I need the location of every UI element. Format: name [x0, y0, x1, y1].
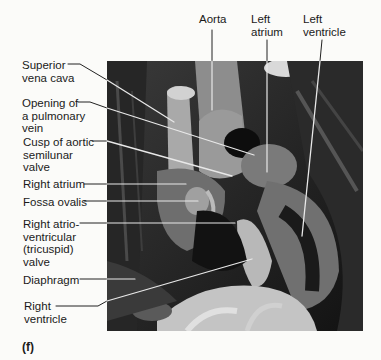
label-left-ventricle: Left ventricle	[303, 13, 346, 38]
label-left-atrium: Left atrium	[251, 13, 283, 38]
label-fossa-ovalis: Fossa ovalis	[23, 196, 87, 209]
figure-panel-letter: (f)	[22, 340, 34, 354]
label-right-atrium: Right atrium	[23, 178, 85, 191]
label-right-ventricle: Right ventricle	[24, 300, 67, 325]
label-diaphragm: Diaphragm	[23, 274, 79, 287]
photo-rendering	[107, 61, 363, 331]
label-tricuspid-valve: Right atrio- ventricular (tricuspid) val…	[23, 218, 79, 268]
heart-dissection-photo	[107, 61, 363, 331]
label-cusp-aortic-valve: Cusp of aortic semilunar valve	[23, 136, 94, 174]
label-superior-vena-cava: Superior vena cava	[22, 59, 74, 84]
label-aorta: Aorta	[199, 13, 227, 26]
label-opening-pulmonary-vein: Opening of a pulmonary vein	[22, 97, 85, 135]
